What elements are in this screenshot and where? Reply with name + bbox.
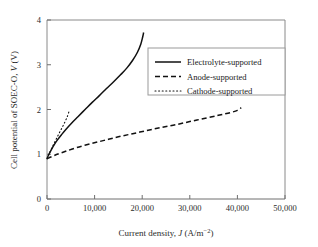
- y-tick-label: 2: [37, 105, 41, 115]
- x-tick-label: 10,000: [83, 203, 106, 213]
- x-tick-label: 20,000: [131, 203, 154, 213]
- x-tick-label: 40,000: [226, 203, 249, 213]
- figure-container: 010,00020,00030,00040,00050,000 01234 El…: [0, 0, 318, 247]
- x-tick-label: 50,000: [273, 203, 296, 213]
- legend-label-0: Electrolyte-supported: [187, 57, 262, 67]
- y-axis-title: Cell potential of SOEC-O, V (V): [9, 51, 19, 169]
- legend-label-1: Anode-supported: [187, 72, 247, 82]
- x-tick-label: 30,000: [178, 203, 201, 213]
- x-tick-label: 0: [45, 203, 49, 213]
- chart-canvas: 010,00020,00030,00040,00050,000 01234 El…: [0, 0, 318, 247]
- svg-text:Current density, J (A/m−2): Current density, J (A/m−2): [119, 227, 214, 239]
- legend-label-2: Cathode-supported: [187, 86, 253, 96]
- y-tick-label: 0: [37, 194, 41, 204]
- chart-legend: Electrolyte-supportedAnode-supportedCath…: [148, 48, 285, 96]
- svg-text:Cell potential of SOEC-O, V (V: Cell potential of SOEC-O, V (V): [9, 51, 19, 169]
- y-tick-label: 3: [37, 60, 41, 70]
- x-axis-title: Current density, J (A/m−2): [119, 227, 214, 239]
- y-tick-label: 1: [37, 149, 41, 159]
